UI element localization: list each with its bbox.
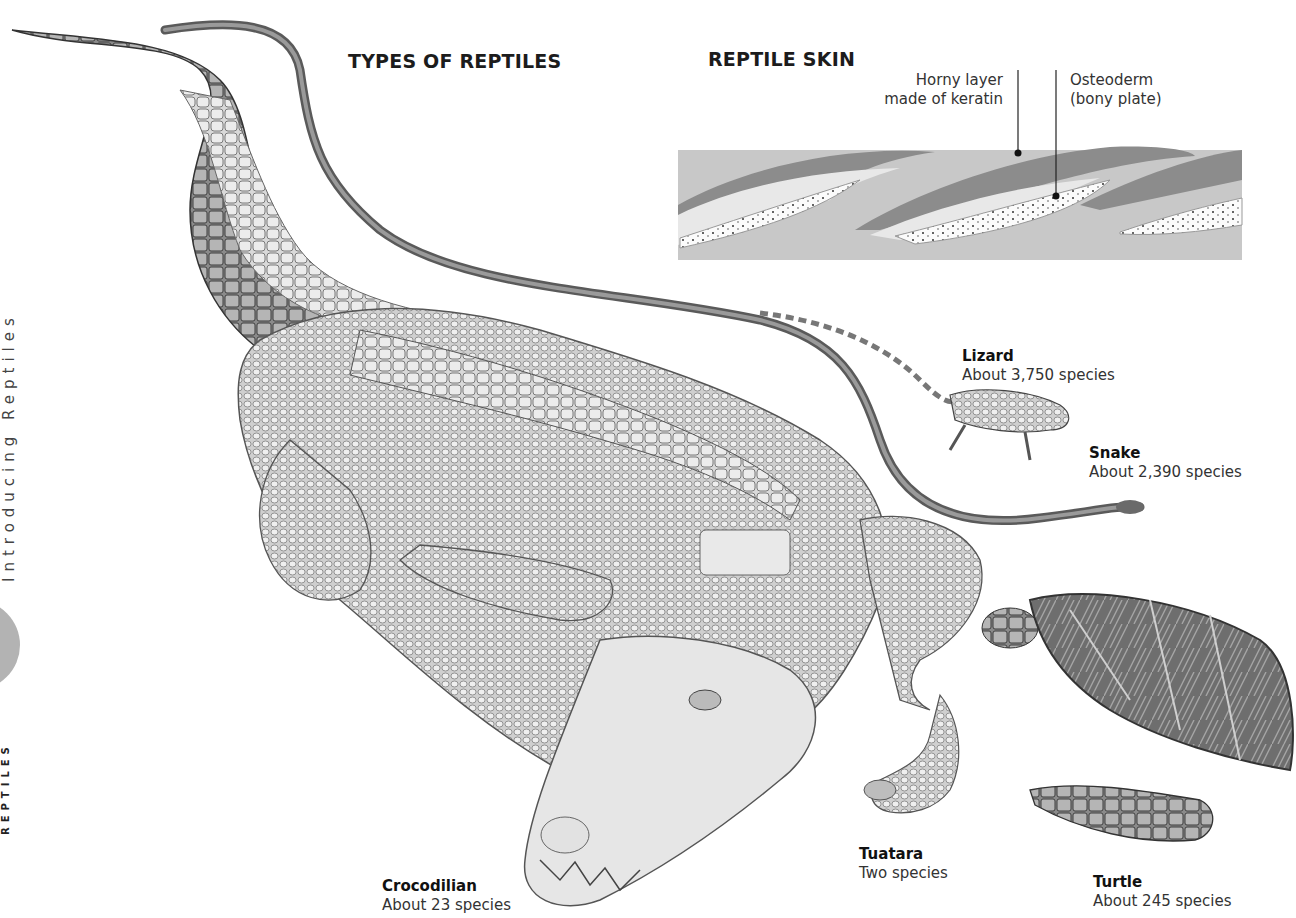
keratin-label-line2: made of keratin (860, 90, 1003, 109)
tuatara-name: Tuatara (859, 845, 948, 864)
types-heading: TYPES OF REPTILES (348, 50, 561, 72)
osteoderm-label-line1: Osteoderm (1070, 71, 1162, 90)
tuatara-count: Two species (859, 864, 948, 883)
crocodilian-name: Crocodilian (382, 877, 511, 896)
turtle-name: Turtle (1093, 873, 1232, 892)
snake-callout: Snake About 2,390 species (1089, 444, 1242, 482)
keratin-label: Horny layer made of keratin (860, 71, 1003, 109)
snake-name: Snake (1089, 444, 1242, 463)
turtle-count: About 245 species (1093, 892, 1232, 911)
skin-heading: REPTILE SKIN (708, 48, 855, 70)
lizard-count: About 3,750 species (962, 366, 1115, 385)
osteoderm-label-line2: (bony plate) (1070, 90, 1162, 109)
osteoderm-label: Osteoderm (bony plate) (1070, 71, 1162, 109)
lizard-callout: Lizard About 3,750 species (962, 347, 1115, 385)
lizard-name: Lizard (962, 347, 1115, 366)
turtle-illustration (982, 594, 1293, 841)
crocodilian-callout: Crocodilian About 23 species (382, 877, 511, 915)
turtle-callout: Turtle About 245 species (1093, 873, 1232, 911)
tuatara-illustration (864, 695, 959, 813)
snake-count: About 2,390 species (1089, 463, 1242, 482)
tuatara-callout: Tuatara Two species (859, 845, 948, 883)
crocodilian-count: About 23 species (382, 896, 511, 915)
keratin-label-line1: Horny layer (860, 71, 1003, 90)
